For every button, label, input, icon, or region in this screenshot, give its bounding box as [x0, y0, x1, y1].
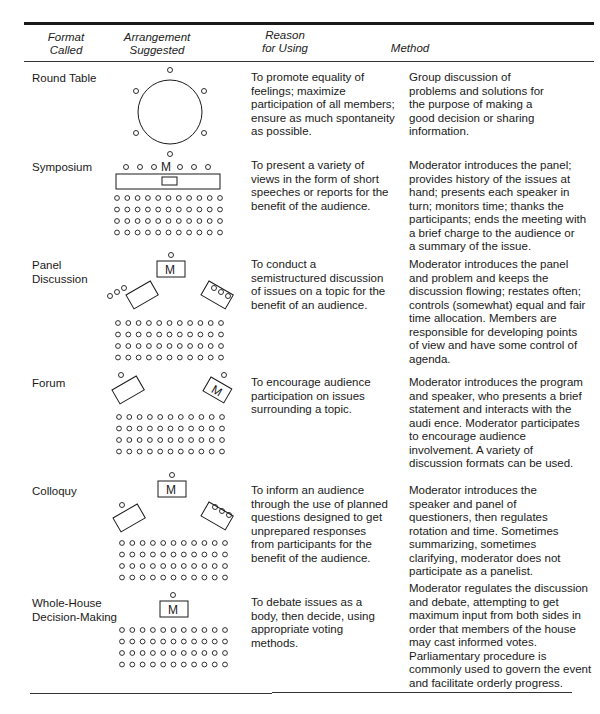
- audience-seat: [151, 628, 156, 633]
- method-line: Moderator introduces the panel;: [409, 159, 594, 173]
- seat: [212, 286, 217, 291]
- method-line: responsible for developing points: [409, 326, 594, 340]
- audience-seat: [161, 564, 166, 569]
- audience-seat: [140, 662, 145, 667]
- audience-seat: [199, 426, 204, 431]
- row-round-table-method: Group discussion of problems and solutio…: [409, 71, 594, 139]
- audience-seat: [146, 230, 151, 235]
- audience-seat: [199, 449, 204, 454]
- audience-seat: [177, 321, 182, 326]
- audience-seat: [116, 332, 121, 337]
- audience-seat: [171, 564, 176, 569]
- audience-seat: [120, 628, 125, 633]
- method-line: a brief charge to the audience or: [409, 227, 594, 241]
- audience-seat: [161, 575, 166, 580]
- audience-seat: [218, 207, 223, 212]
- audience-seat: [140, 575, 145, 580]
- audience-seat: [125, 196, 130, 201]
- bottom-rule: [30, 693, 272, 694]
- method-line: provides history of the issues at: [409, 173, 594, 187]
- audience-seat: [148, 438, 153, 443]
- audience-seat: [218, 230, 223, 235]
- reason-line: through the use of planned: [251, 498, 411, 512]
- audience-seat: [115, 207, 120, 212]
- method-line: discussion flowing; restates often;: [409, 285, 594, 299]
- method-line: turn; monitors time; thanks the: [409, 200, 594, 214]
- audience-seat: [140, 552, 145, 557]
- header-arrangement-line: Arrangement: [112, 31, 202, 44]
- audience-seat: [135, 196, 140, 201]
- audience-seat: [223, 639, 228, 644]
- row-whole-house-reason: To debate issues as a body, then decide,…: [251, 596, 411, 650]
- audience-seat: [167, 355, 172, 360]
- audience-seat: [178, 426, 183, 431]
- method-line: problems and solutions for: [409, 85, 594, 99]
- audience-seat: [151, 639, 156, 644]
- audience-seat: [219, 355, 224, 360]
- audience-seat: [192, 575, 197, 580]
- method-line: the purpose of making a: [409, 98, 594, 112]
- audience-seat: [202, 628, 207, 633]
- reason-line: surrounding a topic.: [251, 403, 411, 417]
- panel-discussion-diagram: M: [100, 250, 240, 380]
- audience-seat: [166, 230, 171, 235]
- seat: [171, 593, 176, 598]
- format-label: Symposium: [32, 161, 92, 175]
- audience-seat: [188, 321, 193, 326]
- method-line: time allocation. Members are: [409, 312, 594, 326]
- audience-seat: [161, 628, 166, 633]
- audience-seat: [176, 196, 181, 201]
- audience-seat: [130, 564, 135, 569]
- moderator-label: M: [168, 603, 178, 617]
- reason-line: To debate issues as a: [251, 596, 411, 610]
- header-reason-line: for Using: [240, 42, 330, 55]
- audience-seat: [192, 628, 197, 633]
- method-line: speaker and panel of: [409, 498, 594, 512]
- audience-seat: [192, 541, 197, 546]
- audience-seat: [137, 426, 142, 431]
- row-symposium-method: Moderator introduces the panel; provides…: [409, 159, 594, 254]
- audience-seat: [223, 662, 228, 667]
- seat: [168, 152, 173, 157]
- audience-seat: [158, 449, 163, 454]
- method-line: a summary of the issue.: [409, 240, 594, 254]
- audience-seat: [116, 321, 121, 326]
- audience-seat: [156, 230, 161, 235]
- audience-seat: [223, 552, 228, 557]
- audience-seat: [147, 344, 152, 349]
- audience-seat: [219, 321, 224, 326]
- audience-seat: [192, 651, 197, 656]
- audience-seat: [146, 219, 151, 224]
- audience-seat: [117, 449, 122, 454]
- speaker-table: [113, 504, 145, 532]
- reason-line: views in the form of short: [251, 173, 411, 187]
- row-panel-discussion-reason: To conduct a semistructured discussion o…: [251, 258, 411, 312]
- audience-seat: [219, 344, 224, 349]
- audience-seat: [157, 332, 162, 337]
- audience-seat: [212, 564, 217, 569]
- audience-seat: [171, 651, 176, 656]
- table: [201, 281, 233, 309]
- audience-seat: [166, 196, 171, 201]
- forum-diagram: M: [100, 368, 240, 468]
- header-arrangement: Arrangement Suggested: [112, 31, 202, 57]
- audience-seat: [171, 541, 176, 546]
- round-table-diagram: [120, 62, 220, 162]
- row-colloquy-method: Moderator introduces the speaker and pan…: [409, 484, 594, 579]
- reason-line: speeches or reports for the: [251, 186, 411, 200]
- audience-seat: [189, 438, 194, 443]
- row-panel-discussion-method: Moderator introduces the panel and probl…: [409, 258, 594, 366]
- audience-seat: [181, 651, 186, 656]
- format-label: Discussion: [32, 273, 88, 287]
- moderator-label: M: [209, 382, 225, 399]
- audience-seat: [135, 219, 140, 224]
- audience-seat: [125, 230, 130, 235]
- audience-seat: [178, 438, 183, 443]
- round-table: [138, 80, 202, 144]
- row-colloquy-reason: To inform an audience through the use of…: [251, 484, 411, 565]
- audience-seat: [126, 332, 131, 337]
- audience-seat: [212, 639, 217, 644]
- seat: [226, 294, 231, 299]
- reason-line: participation on issues: [251, 390, 411, 404]
- audience-seat: [197, 219, 202, 224]
